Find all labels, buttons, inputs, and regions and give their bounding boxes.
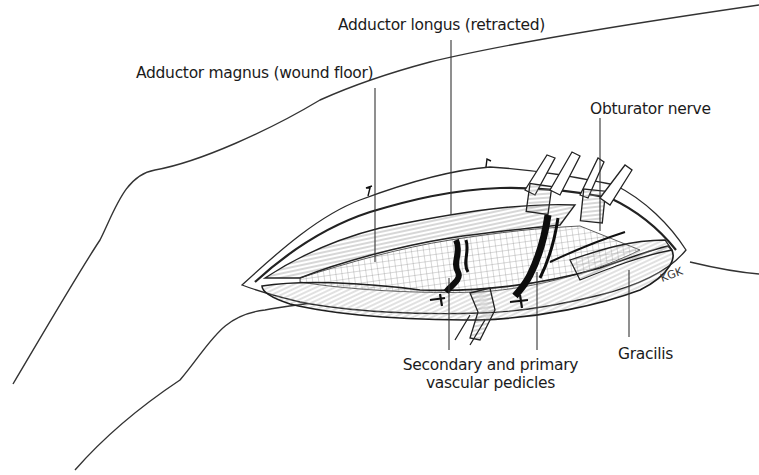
label-vascular-pedicles-line1: Secondary and primary <box>398 356 583 374</box>
label-adductor-longus: Adductor longus (retracted) <box>338 16 545 34</box>
surgical-illustration: KGK <box>0 0 759 475</box>
label-vascular-pedicles-line2: vascular pedicles <box>398 374 583 392</box>
label-adductor-magnus: Adductor magnus (wound floor) <box>136 64 373 82</box>
label-obturator-nerve: Obturator nerve <box>590 100 711 118</box>
label-gracilis: Gracilis <box>618 345 673 363</box>
label-vascular-pedicles: Secondary and primary vascular pedicles <box>398 356 583 392</box>
